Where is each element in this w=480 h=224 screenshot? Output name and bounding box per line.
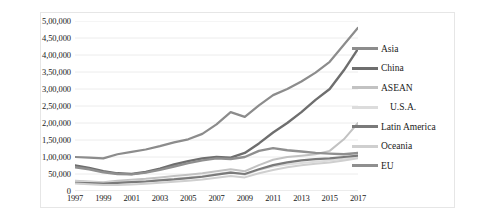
series-line-asia	[75, 28, 358, 159]
x-tick-label: 2015	[322, 193, 338, 203]
x-tick-label: 1997	[67, 193, 83, 203]
legend-item-eu[interactable]: EU	[352, 156, 458, 176]
y-tick-label: 2,00,000	[42, 118, 71, 128]
legend-label-asia: Asia	[381, 44, 398, 54]
legend-label-latin-america: Latin America	[381, 122, 436, 132]
legend-swatch-oceania	[352, 145, 378, 148]
y-tick-label: 4,50,000	[42, 33, 71, 43]
x-tick-label: 2003	[152, 193, 168, 203]
y-tick-label: 4,00,000	[42, 50, 71, 60]
legend-label-asean: ASEAN	[381, 83, 413, 93]
legend: AsiaChinaASEANU.S.A.Latin AmericaOceania…	[352, 39, 458, 176]
gridlines	[75, 21, 358, 191]
x-tick-label: 2013	[293, 193, 309, 203]
legend-label-eu: EU	[381, 161, 394, 171]
legend-item-u-s-a[interactable]: U.S.A.	[352, 98, 458, 118]
x-tick-label: 2017	[350, 193, 366, 203]
x-tick-label: 2009	[237, 193, 253, 203]
legend-label-u-s-a: U.S.A.	[390, 102, 416, 112]
legend-item-asean[interactable]: ASEAN	[352, 78, 458, 98]
y-tick-label: 2,50,000	[42, 101, 71, 111]
legend-item-china[interactable]: China	[352, 59, 458, 79]
x-axis-tick-labels: 1997199920012003200520072009201120132015…	[75, 193, 358, 209]
y-tick-label: 3,50,000	[42, 67, 71, 77]
x-tick-label: 2005	[180, 193, 196, 203]
legend-swatch-asean	[352, 86, 378, 89]
series-line-u-s-a	[75, 157, 358, 183]
y-tick-label: 50,000	[48, 169, 71, 179]
legend-swatch-latin-america	[352, 125, 378, 128]
legend-swatch-asia	[352, 47, 378, 50]
x-tick-label: 1999	[95, 193, 111, 203]
legend-swatch-eu	[352, 164, 378, 167]
legend-swatch-china	[352, 67, 378, 70]
legend-item-asia[interactable]: Asia	[352, 39, 458, 59]
chart-container: 050,0001,00,0001,50,0002,00,0002,50,0003…	[40, 12, 455, 208]
line-chart-svg	[75, 21, 358, 191]
x-tick-label: 2007	[208, 193, 224, 203]
legend-label-china: China	[381, 63, 404, 73]
plot-area: 050,0001,00,0001,50,0002,00,0002,50,0003…	[75, 21, 358, 191]
y-tick-label: 1,00,000	[42, 152, 71, 162]
legend-swatch-u-s-a	[352, 106, 378, 109]
y-tick-label: 5,00,000	[42, 16, 71, 26]
y-axis-tick-labels: 050,0001,00,0001,50,0002,00,0002,50,0003…	[41, 21, 71, 191]
y-tick-label: 3,00,000	[42, 84, 71, 94]
x-tick-label: 2001	[123, 193, 139, 203]
legend-label-oceania: Oceania	[381, 141, 412, 151]
y-tick-label: 1,50,000	[42, 135, 71, 145]
legend-item-latin-america[interactable]: Latin America	[352, 117, 458, 137]
legend-item-oceania[interactable]: Oceania	[352, 137, 458, 157]
series-line-latin-america	[75, 156, 358, 184]
x-tick-label: 2011	[265, 193, 281, 203]
